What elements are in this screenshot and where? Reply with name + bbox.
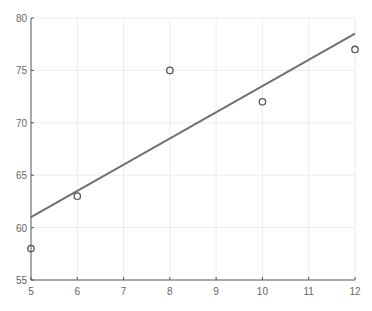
scatter-chart: 56789101112 556065707580 [0, 0, 372, 311]
x-tick-label: 9 [213, 286, 219, 297]
y-tick-label: 75 [16, 65, 28, 76]
x-tick-label: 7 [121, 286, 127, 297]
y-tick-label: 65 [16, 170, 28, 181]
y-tick-label: 55 [16, 275, 28, 286]
regression-line [31, 34, 355, 217]
x-tick-label: 10 [257, 286, 269, 297]
y-tick-label: 80 [16, 13, 28, 24]
x-tick-label: 11 [304, 286, 315, 297]
x-tick-label: 5 [28, 286, 34, 297]
y-tick-label: 70 [16, 118, 28, 129]
y-tick-label: 60 [16, 223, 28, 234]
axes [31, 18, 355, 280]
x-tick-label: 6 [75, 286, 81, 297]
grid-lines [31, 18, 355, 280]
x-tick-label: 12 [349, 286, 361, 297]
fit-line [31, 34, 355, 217]
x-tick-label: 8 [167, 286, 173, 297]
